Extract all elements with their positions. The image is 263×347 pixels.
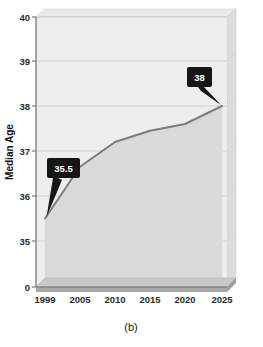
y-axis-title: Median Age	[4, 124, 15, 180]
panel-top-bevel	[36, 9, 236, 17]
y-tick-label-35: 35	[19, 236, 30, 247]
x-tick-label-1999: 1999	[34, 294, 55, 305]
y-tick-label-39: 39	[19, 56, 30, 67]
panel-right-side	[227, 9, 236, 287]
y-tick-label-40: 40	[19, 12, 30, 23]
figure-caption: (b)	[124, 321, 137, 333]
panel-floor	[36, 278, 236, 287]
y-tick-label-36: 36	[19, 191, 30, 202]
x-tick-label-2005: 2005	[69, 294, 91, 305]
callout-start-label: 35.5	[54, 163, 73, 174]
median-age-chart-figure: 40 39 38 37 36 35 0 1999 2005 2010 2015 …	[0, 0, 263, 347]
y-tick-label-38: 38	[19, 101, 30, 112]
x-tick-label-2025: 2025	[211, 294, 233, 305]
y-tick-label-0: 0	[25, 282, 30, 293]
chart-svg: 40 39 38 37 36 35 0 1999 2005 2010 2015 …	[0, 0, 263, 347]
x-tick-label-2020: 2020	[174, 294, 195, 305]
callout-end-label: 38	[194, 72, 205, 83]
floor-shadow	[36, 287, 227, 292]
x-tick-label-2010: 2010	[104, 294, 125, 305]
x-tick-label-2015: 2015	[139, 294, 161, 305]
y-tick-label-37: 37	[19, 146, 30, 157]
